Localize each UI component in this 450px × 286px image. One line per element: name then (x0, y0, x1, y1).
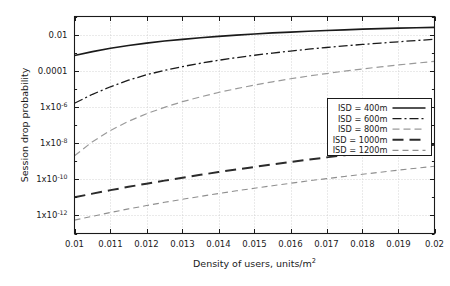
legend-label-isd-800m: ISD = 800m (338, 124, 388, 134)
legend-label-isd-400m: ISD = 400m (338, 103, 388, 113)
chart-legend: ISD = 400mISD = 600mISD = 800mISD = 1000… (328, 99, 432, 156)
legend-label-isd-600m: ISD = 600m (338, 114, 388, 124)
legend-label-isd-1000m: ISD = 1000m (333, 135, 388, 145)
x-tick-label: 0.02 (425, 239, 444, 249)
x-tick-label: 0.015 (242, 239, 266, 249)
x-tick-label: 0.012 (134, 239, 158, 249)
x-tick-label: 0.017 (314, 239, 338, 249)
x-tick-label: 0.018 (350, 239, 374, 249)
session-drop-probability-chart: 0.010.0110.0120.0130.0140.0150.0160.0170… (0, 0, 450, 286)
legend-label-isd-1200m: ISD = 1200m (333, 145, 388, 155)
x-tick-label: 0.011 (98, 239, 122, 249)
x-tick-label: 0.01 (65, 239, 84, 249)
y-tick-label: 0.0001 (38, 66, 68, 76)
chart-figure: 0.010.0110.0120.0130.0140.0150.0160.0170… (0, 0, 450, 286)
y-tick-label: 0.01 (49, 30, 68, 40)
y-axis-title: Session drop probability (19, 67, 30, 182)
x-tick-label: 0.014 (206, 239, 230, 249)
x-tick-label: 0.016 (278, 239, 302, 249)
x-axis-tick-labels: 0.010.0110.0120.0130.0140.0150.0160.0170… (65, 239, 444, 249)
x-axis-title: Density of users, units/m2 (193, 257, 316, 269)
x-tick-label: 0.013 (170, 239, 194, 249)
x-tick-label: 0.019 (386, 239, 410, 249)
